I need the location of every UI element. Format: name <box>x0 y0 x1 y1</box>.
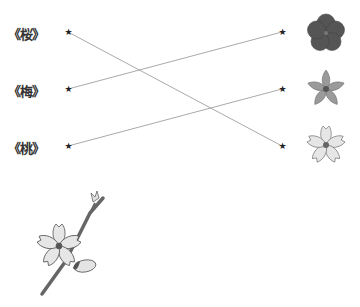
right-star-icon[interactable]: ★ <box>278 28 287 37</box>
dark-plum-flower-icon <box>305 12 347 54</box>
label-ume: 《梅》 <box>8 81 44 100</box>
line-ume <box>68 32 282 89</box>
cherry-branch-illustration <box>25 188 110 298</box>
left-star-icon[interactable]: ★ <box>64 28 73 37</box>
right-star-icon[interactable]: ★ <box>278 142 287 151</box>
left-star-icon[interactable]: ★ <box>64 85 73 94</box>
left-star-icon[interactable]: ★ <box>64 142 73 151</box>
line-momo <box>68 89 282 146</box>
right-star-icon[interactable]: ★ <box>278 85 287 94</box>
peach-flower-icon <box>305 68 347 110</box>
label-momo: 《桃》 <box>8 138 44 157</box>
cherry-blossom-icon <box>305 124 347 168</box>
label-sakura: 《桜》 <box>8 24 44 43</box>
line-sakura <box>68 32 282 146</box>
